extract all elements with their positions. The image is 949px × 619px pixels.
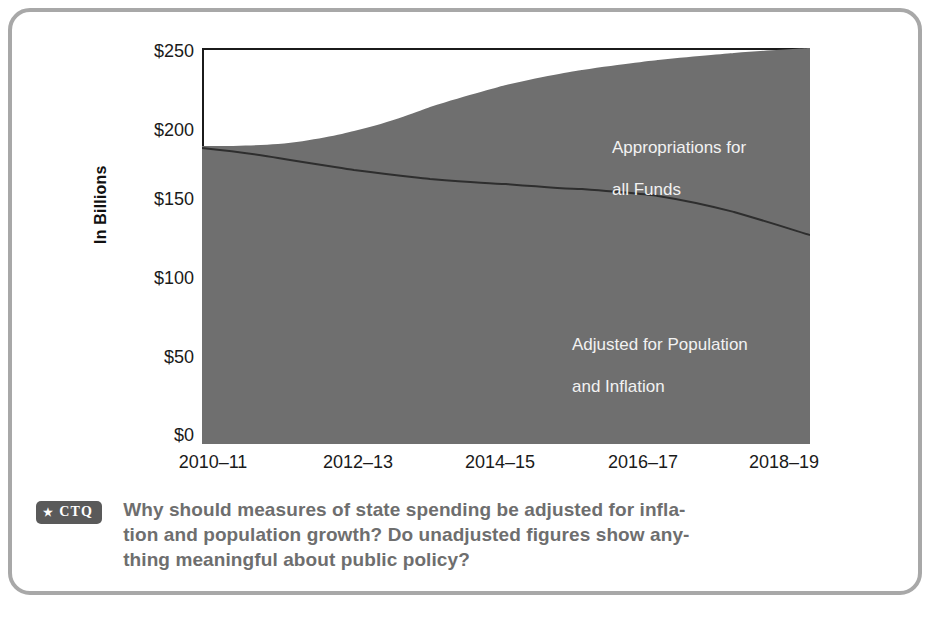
ctq-question-line3: thing meaningful about public policy? [123, 547, 689, 572]
annotation-appropriations: Appropriations for all Funds [612, 116, 746, 221]
x-tick-2018-19: 2018–19 [729, 452, 839, 473]
annotation-appropriations-line2: all Funds [612, 179, 746, 200]
y-tick-200: $200 [124, 120, 194, 141]
y-tick-0: $0 [124, 425, 194, 446]
y-tick-100: $100 [124, 268, 194, 289]
ctq-badge-label: CTQ [59, 504, 93, 520]
y-axis-title: In Billions [92, 165, 110, 244]
x-tick-2010-11: 2010–11 [158, 452, 268, 473]
x-tick-2012-13: 2012–13 [303, 452, 413, 473]
chart-container: In Billions $250 $200 $150 $100 $50 $0 A… [0, 0, 949, 619]
y-tick-150: $150 [124, 189, 194, 210]
annotation-appropriations-line1: Appropriations for [612, 137, 746, 158]
ctq-question-line2: tion and population growth? Do unadjuste… [123, 522, 689, 547]
x-tick-2014-15: 2014–15 [445, 452, 555, 473]
ctq-question: Why should measures of state spending be… [123, 497, 689, 572]
annotation-adjusted-line2: and Inflation [572, 376, 748, 397]
y-tick-50: $50 [124, 347, 194, 368]
x-tick-2016-17: 2016–17 [588, 452, 698, 473]
y-axis-tick-labels: $250 $200 $150 $100 $50 $0 [122, 0, 194, 470]
ctq-question-line1: Why should measures of state spending be… [123, 497, 689, 522]
annotation-adjusted: Adjusted for Population and Inflation [572, 313, 748, 418]
star-icon: ★ [43, 507, 54, 518]
ctq-badge: ★ CTQ [36, 501, 102, 524]
ctq-row: ★ CTQ Why should measures of state spend… [36, 497, 896, 572]
y-tick-250: $250 [124, 41, 194, 62]
annotation-adjusted-line1: Adjusted for Population [572, 334, 748, 355]
